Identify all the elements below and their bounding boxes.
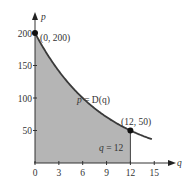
y-axis-arrow-icon <box>32 12 38 20</box>
x-tick-label: 3 <box>56 168 61 178</box>
y-ticks: 50100150200 <box>18 29 37 137</box>
x-tick-label: 15 <box>150 168 160 178</box>
x-axis-label: q <box>177 158 182 168</box>
x-tick-label: 9 <box>104 168 109 178</box>
x-axis-arrow-icon <box>168 160 176 166</box>
x-tick-label: 0 <box>33 168 38 178</box>
point-b-label: (12, 50) <box>121 117 151 128</box>
x-tick-label: 6 <box>80 168 85 178</box>
point-a-label: (0, 200) <box>40 33 70 44</box>
y-axis-label: p <box>40 12 46 22</box>
demand-curve-chart: 03691215 50100150200 q p (0, 200) (12, 5… <box>0 0 182 192</box>
vertical-line-label: q = 12 <box>99 143 124 153</box>
curve-label: p = D(q) <box>76 95 110 106</box>
y-tick-label: 200 <box>18 29 33 39</box>
y-tick-label: 150 <box>18 61 33 71</box>
x-tick-label: 12 <box>126 168 136 178</box>
x-ticks: 03691215 <box>33 161 160 178</box>
y-tick-label: 100 <box>18 94 33 104</box>
point-0-200 <box>32 30 38 36</box>
y-tick-label: 50 <box>23 126 33 136</box>
point-12-50 <box>127 128 133 134</box>
